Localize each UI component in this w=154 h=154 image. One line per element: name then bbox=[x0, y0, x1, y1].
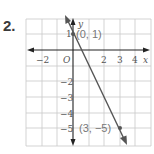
x-tick-4: 4 bbox=[132, 55, 138, 65]
point-3-neg5 bbox=[118, 126, 122, 130]
y-tick-neg5: −5 bbox=[60, 124, 74, 134]
origin-label: O bbox=[63, 55, 71, 65]
y-tick-1: 1 bbox=[66, 29, 72, 39]
x-axis-left-arrow bbox=[27, 48, 34, 53]
line-bottom-arrow bbox=[120, 136, 127, 146]
x-axis-label: x bbox=[143, 55, 148, 65]
y-axis-down-arrow bbox=[71, 139, 76, 146]
point-0-1 bbox=[71, 32, 75, 36]
y-tick-neg2: −2 bbox=[60, 77, 73, 87]
x-tick-2: 2 bbox=[101, 55, 107, 65]
x-axis-right-arrow bbox=[143, 48, 150, 53]
coordinate-plane: y x O −2 2 3 4 1 −2 −3 −4 −5 (0, 1) (3, … bbox=[0, 0, 154, 154]
x-tick-3: 3 bbox=[117, 55, 123, 65]
y-tick-neg4: −4 bbox=[60, 109, 74, 119]
point-label-0-1: (0, 1) bbox=[76, 28, 102, 40]
x-tick-neg2: −2 bbox=[36, 55, 49, 65]
y-tick-neg3: −3 bbox=[60, 93, 74, 103]
point-label-3-neg5: (3, −5) bbox=[79, 122, 111, 134]
